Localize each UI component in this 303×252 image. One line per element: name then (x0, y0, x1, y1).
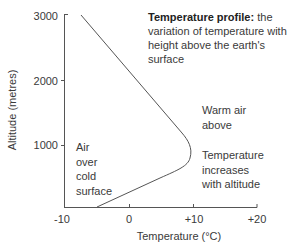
annotation-line: surface (76, 184, 112, 199)
x-tick-label: +20 (242, 212, 272, 226)
y-tick-label: 1000 (18, 138, 58, 152)
annotation-line: over (76, 155, 112, 170)
annotation-line: Temperature (202, 148, 264, 163)
annotation-line: increases (202, 163, 264, 178)
diagram-title: Temperature profile: the variation of te… (148, 10, 303, 66)
x-tick-label: 0 (114, 212, 144, 226)
annotation-line: Warm air (202, 103, 246, 118)
annotation-line: Air (76, 140, 112, 155)
annotation-line: above (202, 118, 246, 133)
x-axis-label: Temperature (°C) (129, 230, 229, 242)
temperature-profile-diagram: 3000 2000 1000 -10 0 +10 +20 Altitude (m… (0, 0, 303, 252)
x-tick-label: -10 (47, 212, 77, 226)
y-tick-label: 2000 (18, 74, 58, 88)
y-tick-label: 3000 (18, 9, 58, 23)
annotation-line: cold (76, 169, 112, 184)
annotation-line: with altitude (202, 177, 264, 192)
title-bold: Temperature profile: (148, 11, 254, 23)
x-tick-label: +10 (179, 212, 209, 226)
annotation-temperature-increases: Temperature increases with altitude (202, 148, 264, 192)
annotation-warm-air: Warm air above (202, 103, 246, 132)
annotation-cold-surface: Air over cold surface (76, 140, 112, 198)
y-axis-label: Altitude (metres) (6, 60, 18, 160)
